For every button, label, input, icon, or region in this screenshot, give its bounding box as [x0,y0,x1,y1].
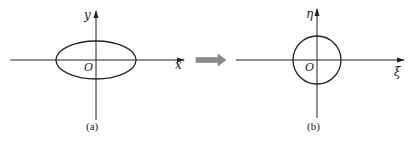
y-axis-label: y [83,8,91,22]
caption-a: (a) [86,120,99,133]
eta-axis-label: η [306,7,314,21]
x-axis-label: x [175,58,182,72]
xi-axis-label: ξ [394,65,402,79]
panel-a: y x O (a) [10,8,184,133]
panel-b: η ξ O (b) [236,7,404,133]
transform-arrow-icon [196,54,226,66]
diagram-canvas: y x O (a) η ξ O (b) [0,0,413,141]
caption-b: (b) [307,120,320,133]
origin-label: O [305,61,314,74]
origin-label: O [84,61,93,74]
